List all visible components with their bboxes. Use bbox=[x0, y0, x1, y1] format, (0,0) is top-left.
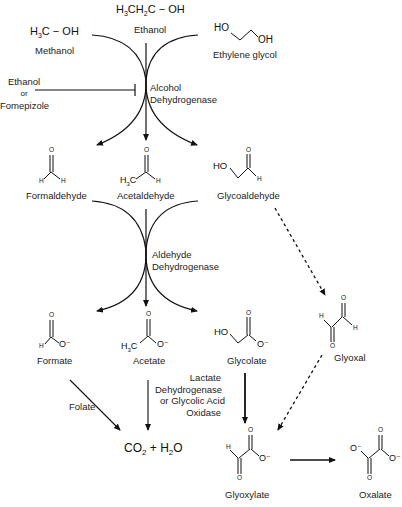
arrow-glycoaldehyde-to-glyoxal bbox=[275, 208, 325, 295]
acetate-o-minus: O⁻ bbox=[157, 340, 169, 349]
ethylene-glycol-oh: OH bbox=[258, 35, 273, 45]
glyoxylate-o-minus: O⁻ bbox=[259, 454, 271, 463]
inhibitor-label: Ethanol or Fomepizole bbox=[4, 76, 44, 112]
glycolate-o-minus: O⁻ bbox=[257, 340, 269, 349]
formate-bonds bbox=[45, 320, 59, 344]
acetate-h3c: H3C bbox=[121, 342, 137, 353]
glyoxal-o2: O bbox=[330, 343, 335, 350]
glycolate-o: O bbox=[246, 310, 251, 317]
arrow-glyoxal-to-glyoxylate bbox=[278, 355, 322, 430]
glycoaldehyde-ho: HO bbox=[213, 161, 227, 171]
glycolate-ho: HO bbox=[214, 327, 228, 337]
formate-o: O bbox=[49, 312, 54, 319]
formaldehyde-label: Formaldehyde bbox=[26, 190, 87, 201]
glyoxylate-h: H bbox=[226, 444, 231, 451]
glyoxal-label: Glyoxal bbox=[334, 352, 366, 363]
glyoxylate-o2: O bbox=[237, 475, 242, 482]
oxalate-label: Oxalate bbox=[359, 489, 392, 500]
formate-o-minus: O⁻ bbox=[59, 340, 71, 349]
glyoxal-h1: H bbox=[319, 313, 324, 320]
co2-h2o-product: CO2 + H2O bbox=[124, 441, 183, 457]
ldh-label: Lactate Dehydrogenase or Glycolic Acid O… bbox=[155, 372, 221, 418]
formate-h: H bbox=[39, 343, 44, 350]
ethanol-label: Ethanol bbox=[134, 24, 166, 35]
dashed-arrows bbox=[275, 208, 325, 430]
formaldehyde-h2: H bbox=[61, 178, 66, 185]
glycoaldehyde-label: Glycoaldehyde bbox=[217, 190, 280, 201]
oxalate-o-minus-1: O⁻ bbox=[350, 444, 362, 453]
glyoxal-h2: H bbox=[353, 325, 358, 332]
glyoxylate-label: Glyoxylate bbox=[225, 489, 269, 500]
formaldehyde-h1: H bbox=[39, 178, 44, 185]
glyoxylate-bonds bbox=[230, 435, 259, 474]
aldh-label: Aldehyde Dehydrogenase bbox=[152, 249, 219, 273]
inhibition-line bbox=[35, 84, 135, 96]
oxalate-o2: O bbox=[367, 475, 372, 482]
glycolate-bonds bbox=[230, 317, 256, 343]
folate-label: Folate bbox=[69, 401, 95, 412]
glyoxylate-o1: O bbox=[248, 427, 253, 434]
formate-label: Formate bbox=[37, 355, 72, 366]
methanol-label: Methanol bbox=[35, 45, 74, 56]
methanol-formula: H3C − OH bbox=[30, 25, 79, 39]
acetate-label: Acetate bbox=[133, 355, 165, 366]
glyoxal-o1: O bbox=[341, 295, 346, 302]
glyoxal-bonds bbox=[324, 303, 352, 342]
formaldehyde-o: O bbox=[49, 147, 54, 154]
arc-formaldehyde-to-formate bbox=[92, 201, 146, 311]
oxalate-o-minus-2: O⁻ bbox=[389, 454, 401, 463]
acetaldehyde-h3c: H3C bbox=[120, 176, 136, 187]
glycoaldehyde-o: O bbox=[246, 147, 251, 154]
acetaldehyde-h: H bbox=[156, 178, 161, 185]
oxalate-bonds bbox=[361, 435, 389, 474]
ethylene-glycol-bonds bbox=[231, 30, 258, 40]
ethanol-formula: H3CH2C − OH bbox=[116, 3, 185, 17]
acetaldehyde-label: Acetaldehyde bbox=[117, 190, 175, 201]
glycolate-label: Glycolate bbox=[227, 355, 267, 366]
acetaldehyde-o: O bbox=[144, 147, 149, 154]
adh-label: Alcohol Dehydrogenase bbox=[150, 82, 217, 106]
oxalate-o1: O bbox=[378, 427, 383, 434]
ethylene-glycol-ho: HO bbox=[214, 23, 229, 33]
acetate-o: O bbox=[146, 311, 151, 318]
glycoaldehyde-bonds bbox=[230, 154, 256, 178]
acetaldehyde-bonds bbox=[136, 155, 155, 179]
ethylene-glycol-label: Ethylene glycol bbox=[213, 49, 277, 60]
formaldehyde-bonds bbox=[44, 155, 60, 179]
acetate-bonds bbox=[140, 319, 156, 343]
glycoaldehyde-h: H bbox=[257, 176, 262, 183]
